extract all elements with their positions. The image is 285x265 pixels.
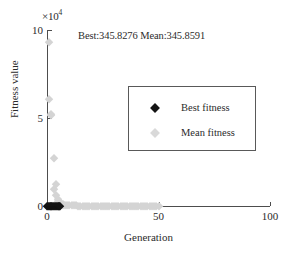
x-axis-title-text: Generation: [124, 231, 173, 243]
data-point: [50, 154, 58, 162]
legend-label: Mean fitness: [181, 128, 235, 139]
x-tick-label: 50: [153, 211, 164, 222]
x-tick-label: 0: [44, 211, 50, 222]
data-point: [45, 95, 53, 103]
x-tick-label: 100: [262, 211, 279, 222]
diamond-marker-icon: [150, 103, 160, 113]
chart-legend: Best fitnessMean fitness: [128, 86, 256, 151]
exponent-power: 4: [59, 8, 63, 17]
x-tick-mark: [270, 202, 271, 206]
x-axis-title: Generation: [0, 232, 285, 243]
exponent-base: ×10: [42, 10, 59, 22]
fitness-plot-figure: ×104 Best:345.8276 Mean:345.8591 0510 05…: [0, 0, 285, 265]
diamond-marker-icon: [150, 128, 160, 138]
legend-item-best-fitness: Best fitness: [129, 100, 255, 116]
y-tick-mark: [48, 30, 52, 31]
y-axis-title: Fitness value: [9, 60, 20, 118]
y-axis-exponent-multiplier: ×104: [42, 11, 62, 22]
legend-label: Best fitness: [181, 103, 230, 114]
y-tick-label: 5: [38, 113, 44, 124]
y-tick-label: 10: [32, 25, 43, 36]
legend-item-mean-fitness: Mean fitness: [129, 125, 255, 141]
